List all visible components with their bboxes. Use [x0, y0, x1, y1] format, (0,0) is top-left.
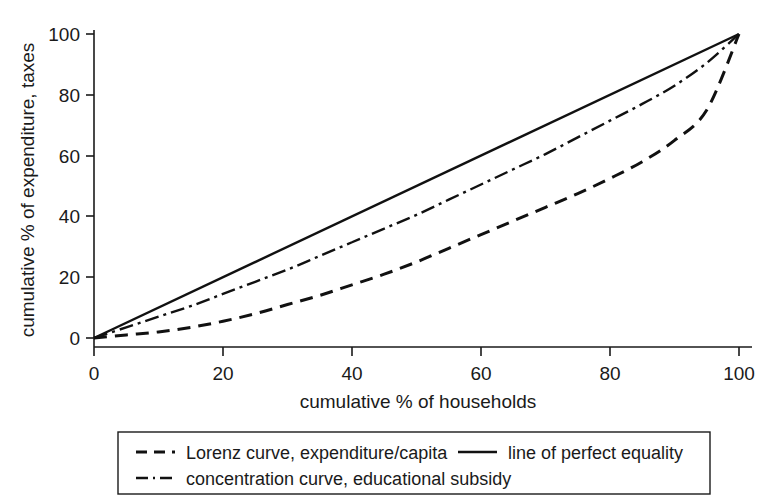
x-tick-label-40: 40 [341, 363, 362, 384]
axis-group [94, 30, 752, 347]
x-tick-label-100: 100 [723, 363, 755, 384]
lorenz-concentration-chart: 0 20 40 60 80 100 0 20 40 60 80 100 cumu… [0, 0, 767, 498]
y-tick-group: 0 20 40 60 80 100 [48, 24, 94, 349]
y-axis-title: cumulative % of expenditure, taxes [17, 43, 38, 338]
x-tick-label-80: 80 [599, 363, 620, 384]
legend: Lorenz curve, expenditure/capita line of… [118, 432, 710, 494]
series-group [94, 34, 739, 338]
y-tick-label-60: 60 [59, 146, 80, 167]
y-tick-label-100: 100 [48, 24, 80, 45]
series-line-of-equality [94, 34, 739, 338]
legend-label-concentration: concentration curve, educational subsidy [186, 469, 511, 489]
x-tick-group: 0 20 40 60 80 100 [89, 347, 755, 384]
x-tick-label-60: 60 [470, 363, 491, 384]
chart-figure: 0 20 40 60 80 100 0 20 40 60 80 100 cumu… [0, 0, 767, 498]
x-tick-label-0: 0 [89, 363, 100, 384]
x-axis-title: cumulative % of households [300, 391, 537, 412]
x-tick-label-20: 20 [212, 363, 233, 384]
legend-label-lorenz: Lorenz curve, expenditure/capita [186, 443, 448, 463]
legend-label-equality: line of perfect equality [508, 443, 683, 463]
y-tick-label-40: 40 [59, 206, 80, 227]
y-tick-label-80: 80 [59, 85, 80, 106]
y-tick-label-0: 0 [69, 328, 80, 349]
y-tick-label-20: 20 [59, 267, 80, 288]
